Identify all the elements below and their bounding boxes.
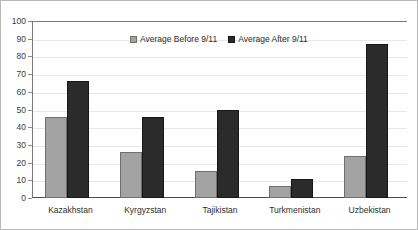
legend-item-before: Average Before 9/11: [130, 34, 217, 44]
bar-after: [217, 110, 239, 199]
bar-group: [332, 21, 407, 198]
legend-label-after: Average After 9/11: [238, 34, 308, 44]
bar-group: [257, 21, 332, 198]
x-axis-category-label: Turkmenistan: [257, 204, 332, 216]
legend-swatch-before-icon: [130, 36, 137, 43]
y-axis-tick-label: 70: [17, 68, 26, 80]
bar-before: [45, 117, 67, 198]
y-axis-tick-mark: [28, 198, 32, 199]
legend-label-before: Average Before 9/11: [140, 34, 217, 44]
bar-after: [366, 44, 388, 198]
x-axis-category-label: Uzbekistan: [332, 204, 407, 216]
bar-before: [120, 152, 142, 198]
y-axis: 0102030405060708090100: [1, 15, 32, 204]
y-axis-tick-label: 100: [12, 15, 26, 27]
bars-layer: [33, 21, 407, 198]
y-axis-tick-label: 60: [17, 86, 26, 98]
bar-group: [33, 21, 108, 198]
bar-after: [67, 81, 89, 198]
bar-chart-figure: 0102030405060708090100 KazakhstanKyrgyzs…: [0, 0, 418, 230]
y-axis-tick-label: 30: [17, 139, 26, 151]
bar-group: [108, 21, 183, 198]
x-axis-labels: KazakhstanKyrgyzstanTajikistanTurkmenist…: [33, 204, 407, 220]
x-axis-category-label: Tajikistan: [183, 204, 258, 216]
x-axis-category-label: Kazakhstan: [33, 204, 108, 216]
chart-legend: Average Before 9/11 Average After 9/11: [130, 34, 308, 44]
y-axis-tick-label: 0: [21, 192, 26, 204]
legend-item-after: Average After 9/11: [228, 34, 308, 44]
y-axis-tick-label: 10: [17, 174, 26, 186]
legend-swatch-after-icon: [228, 36, 235, 43]
bar-after: [142, 117, 164, 198]
bar-before: [195, 171, 217, 198]
y-axis-tick-label: 90: [17, 33, 26, 45]
bar-before: [344, 156, 366, 198]
y-axis-tick-label: 20: [17, 157, 26, 169]
bar-group: [183, 21, 258, 198]
x-axis-category-label: Kyrgyzstan: [108, 204, 183, 216]
bar-after: [291, 179, 313, 198]
y-axis-tick-label: 50: [17, 104, 26, 116]
y-axis-tick-label: 80: [17, 50, 26, 62]
y-axis-tick-label: 40: [17, 121, 26, 133]
bar-before: [269, 186, 291, 198]
